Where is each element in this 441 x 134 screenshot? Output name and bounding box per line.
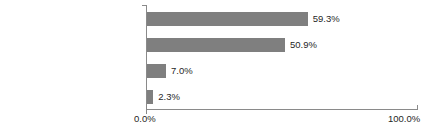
bar-track: 59.3%: [147, 6, 418, 32]
bar: [147, 38, 285, 52]
bar-track: 7.0%: [147, 58, 418, 84]
bar: [147, 64, 166, 78]
bar: [147, 12, 308, 26]
x-axis-label-start: 0.0%: [134, 113, 156, 124]
bar-value-label: 7.0%: [166, 64, 193, 78]
bar-value-label: 50.9%: [285, 38, 317, 52]
bar-value-label: 59.3%: [308, 12, 340, 26]
bar-value-label: 2.3%: [153, 90, 180, 104]
bar-chart: Parents' lack of time 59.3% Parents' lac…: [0, 0, 441, 134]
bar-track: 2.3%: [147, 84, 418, 110]
bar-track: 50.9%: [147, 32, 418, 58]
x-axis-label-end: 100.0%: [388, 113, 420, 124]
